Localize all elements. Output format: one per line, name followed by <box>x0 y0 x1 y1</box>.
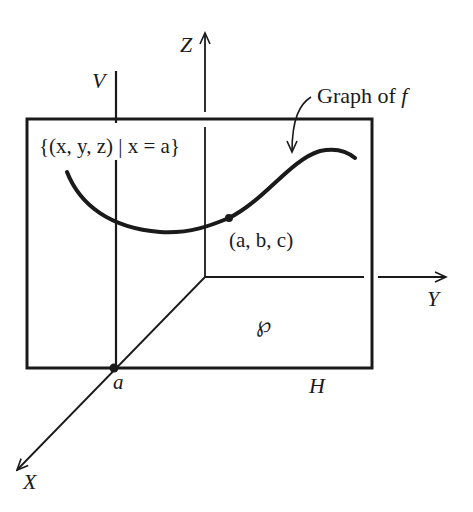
h-plane-label: H <box>308 373 326 398</box>
y-axis-label: Y <box>427 286 442 311</box>
x-axis <box>17 277 205 470</box>
point-abc-label: (a, b, c) <box>229 228 293 252</box>
x-axis-label: X <box>22 469 38 494</box>
region-p-label: ℘ <box>256 312 271 337</box>
z-axis-label: Z <box>180 32 193 57</box>
point-abc <box>225 214 233 222</box>
curve-label-arrow <box>292 97 311 152</box>
set-notation-label: {(x, y, z) | x = a} <box>39 134 180 158</box>
graph-of-f-text: Graph of <box>317 83 401 108</box>
graph-of-f-var: f <box>401 83 410 108</box>
graph-of-f-label: Graph of f <box>317 83 410 108</box>
point-a-label: a <box>113 370 124 394</box>
graph-of-f-curve <box>67 150 355 233</box>
diagram-canvas: Z V Y X H a ℘ {(x, y, z) | x = a} (a, b,… <box>0 0 473 512</box>
v-line-label: V <box>92 68 108 93</box>
